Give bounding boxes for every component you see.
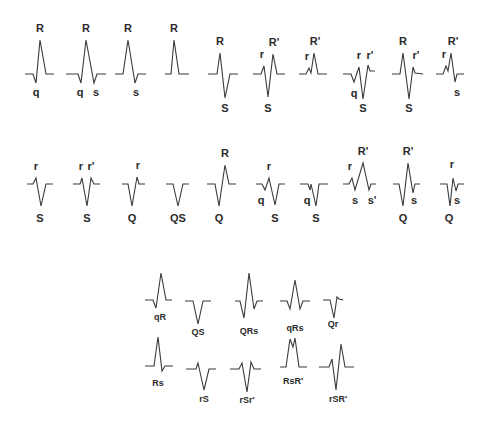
wave-label: s: [454, 194, 460, 206]
qrs-complex-QS: QS: [185, 301, 211, 337]
qrs-complex-rSrprime: rSr': [230, 362, 261, 405]
wave-label: R: [170, 22, 178, 34]
qrs-complex-RSrprime: Rr'S: [392, 35, 423, 114]
qrs-complex-Rs: Rs: [145, 337, 173, 388]
wave-label: r: [260, 48, 265, 60]
wave-label: S: [271, 212, 278, 224]
wave-label: q: [77, 86, 84, 98]
qrs-complex-rSRprime: rSR': [319, 344, 354, 404]
wave-label: q: [304, 194, 311, 206]
qrs-morphology-diagram: RqRqsRsRRSrR'SrR'qrr'SRr'SrR's rSrr'SrQQ…: [0, 0, 491, 429]
waveform-trace: [166, 184, 189, 206]
qrs-complex-qRs: Rqs: [66, 22, 106, 98]
wave-label: R': [310, 35, 321, 47]
wave-label: S: [264, 102, 271, 114]
waveform-trace: [25, 40, 54, 83]
qrs-complex-Qr: Qr: [323, 297, 343, 329]
wave-label: rS: [199, 394, 209, 404]
wave-label: S: [359, 102, 366, 114]
waveform-trace: [253, 54, 285, 97]
wave-label: s: [352, 194, 358, 206]
qrs-complex-rS: rS: [27, 160, 53, 224]
waveform-trace: [280, 280, 310, 309]
qrs-complex-qRs: qRs: [280, 280, 310, 333]
wave-label: s: [454, 86, 460, 98]
wave-label: s: [411, 194, 417, 206]
wave-label: R: [399, 35, 407, 47]
wave-label: R: [221, 147, 229, 159]
waveform-trace: [73, 178, 100, 206]
wave-label: r: [450, 158, 455, 170]
qrs-complex-qrSrprime: qrr'S: [343, 49, 375, 114]
wave-label: qR: [154, 312, 166, 322]
wave-label: QS: [191, 327, 204, 337]
qrs-complex-R: R: [165, 22, 189, 74]
wave-label: QRs: [240, 326, 259, 336]
wave-label: R: [36, 22, 44, 34]
qrs-complex-rSRprime: rR'S: [253, 36, 285, 114]
wave-label: rSr': [239, 395, 254, 405]
waveform-trace: [66, 40, 106, 83]
qrs-complex-qrS: rqS: [256, 160, 285, 224]
wave-label: r: [267, 160, 272, 172]
waveform-trace: [185, 301, 211, 324]
waveform-trace: [145, 337, 173, 371]
qrs-complex-qR: qR: [145, 273, 172, 322]
wave-label: r: [357, 49, 362, 61]
qrs-complex-rsRprimesprime: rsR's': [343, 145, 377, 206]
qrs-complex-RS: RS: [208, 35, 238, 114]
qrs-complex-Qrs: rQs: [440, 158, 464, 224]
wave-label: Q: [128, 212, 137, 224]
wave-label: r: [442, 48, 447, 60]
wave-label: S: [405, 102, 412, 114]
wave-label: r: [348, 160, 353, 172]
wave-label: s': [368, 194, 377, 206]
waveform-trace: [440, 178, 464, 206]
wave-label: S: [312, 212, 319, 224]
qrs-complex-Qr: rQ: [122, 159, 145, 224]
wave-label: R': [448, 35, 459, 47]
wave-label: S: [36, 212, 43, 224]
wave-label: q: [351, 87, 358, 99]
waveform-trace: [280, 338, 307, 367]
wave-label: rSR': [329, 394, 347, 404]
wave-label: q: [258, 194, 265, 206]
wave-label: r: [34, 160, 39, 172]
waveform-trace: [145, 273, 172, 308]
qrs-complex-rRprimes: rR's: [436, 35, 464, 98]
wave-label: r: [79, 160, 84, 172]
wave-label: Qr: [328, 319, 339, 329]
wave-label: q: [33, 86, 40, 98]
wave-label: r': [413, 49, 420, 61]
qrs-complex-QR: RQ: [207, 147, 236, 224]
qrs-complex-rS: rS: [186, 363, 216, 404]
waveform-trace: [122, 177, 145, 206]
wave-label: R: [124, 22, 132, 34]
waveform-trace: [319, 344, 354, 390]
wave-label: Rs: [152, 378, 164, 388]
waveform-trace: [207, 165, 236, 206]
waveform-trace: [27, 178, 53, 206]
qrs-complex-rSrprime: rr'S: [73, 160, 100, 224]
wave-label: S: [221, 102, 228, 114]
wave-label: qRs: [286, 323, 303, 333]
wave-label: RsR': [283, 376, 303, 386]
wave-label: s: [133, 86, 139, 98]
wave-label: R: [82, 22, 90, 34]
waveform-trace: [165, 40, 189, 74]
qrs-complex-qR: Rq: [25, 22, 54, 98]
qrs-complex-QRs: QRs: [235, 273, 263, 336]
wave-label: Q: [445, 212, 454, 224]
middle-row-complexes: rSrr'SrQQSRQrqSqSrsR's'R'QsrQs: [27, 145, 464, 224]
qrs-complex-RsRprime: RsR': [280, 338, 307, 386]
waveform-trace: [186, 363, 216, 390]
wave-label: R: [216, 35, 224, 47]
wave-label: r': [367, 49, 374, 61]
qrs-complex-qS: qS: [300, 184, 328, 224]
wave-label: R': [269, 36, 280, 48]
waveform-trace: [436, 53, 464, 82]
wave-label: r: [136, 159, 141, 171]
top-row-complexes: RqRqsRsRRSrR'SrR'qrr'SRr'SrR's: [25, 22, 464, 114]
waveform-trace: [299, 53, 327, 74]
bottom-grid-complexes: qRQSQRsqRsQrRsrSrSr'RsR'rSR': [145, 273, 354, 405]
